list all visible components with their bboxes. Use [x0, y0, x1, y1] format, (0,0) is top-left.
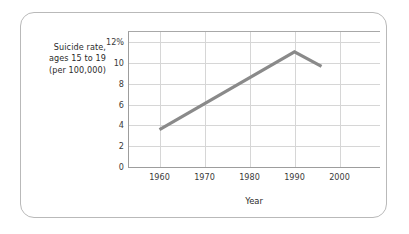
- y-tick-label: 6: [119, 100, 124, 110]
- y-tick-label: 10: [114, 58, 124, 68]
- y-tick-label: 0: [119, 162, 124, 172]
- x-tick-label: 1980: [239, 172, 260, 182]
- series-polyline: [160, 52, 322, 130]
- y-tick-label: 8: [119, 79, 124, 89]
- y-axis-tick-labels: 024681012%: [92, 31, 124, 167]
- y-tick-label: 2: [119, 141, 124, 151]
- x-tick-label: 2000: [329, 172, 350, 182]
- x-tick-label: 1960: [149, 172, 170, 182]
- x-axis-title: Year: [128, 196, 380, 206]
- x-tick-label: 1970: [194, 172, 215, 182]
- gridline-horizontal: [128, 167, 380, 168]
- chart-figure: Suicide rate, ages 15 to 19 (per 100,000…: [0, 0, 409, 234]
- y-tick-label: 12%: [106, 37, 124, 47]
- plot-area: [128, 31, 380, 167]
- x-tick-label: 1990: [284, 172, 305, 182]
- x-axis-tick-labels: 19601970198019902000: [128, 172, 380, 186]
- y-tick-label: 4: [119, 120, 124, 130]
- data-series-line: [128, 31, 380, 167]
